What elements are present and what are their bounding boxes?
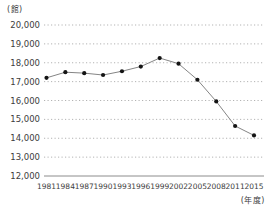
y-tick-label: 18,000 [10, 58, 40, 68]
x-tick-label: 1993 [112, 182, 131, 191]
x-tick-label: 1987 [75, 182, 94, 191]
data-point [120, 69, 124, 73]
data-line [47, 58, 255, 135]
data-point [252, 133, 256, 137]
x-tick-label: 2005 [188, 182, 207, 191]
x-axis-unit-label: (年度) [241, 194, 265, 205]
data-point [214, 99, 218, 103]
data-point [139, 64, 143, 68]
y-tick-label: 19,000 [10, 39, 40, 49]
data-point [63, 70, 67, 74]
x-tick-label: 1981 [37, 182, 56, 191]
data-point [158, 56, 162, 60]
x-tick-label: 2002 [169, 182, 188, 191]
x-tick-label: 2011 [226, 182, 245, 191]
line-chart: 20,00019,00018,00017,00016,00015,00014,0… [0, 0, 271, 209]
x-tick-label: 2008 [207, 182, 226, 191]
x-tick-label: 1990 [94, 182, 113, 191]
y-tick-label: 20,000 [10, 20, 40, 30]
data-point [101, 73, 105, 77]
x-tick-label: 2015 [244, 182, 263, 191]
y-tick-label: 15,000 [10, 114, 40, 124]
y-tick-label: 17,000 [10, 77, 40, 87]
y-tick-label: 12,000 [10, 171, 40, 181]
data-point [233, 124, 237, 128]
x-tick-label: 1996 [131, 182, 150, 191]
y-tick-label: 16,000 [10, 96, 40, 106]
line-chart-container: (館) 20,00019,00018,00017,00016,00015,000… [0, 0, 271, 209]
x-tick-label: 1984 [56, 182, 75, 191]
data-point [176, 62, 180, 66]
y-tick-label: 13,000 [10, 152, 40, 162]
data-point [82, 71, 86, 75]
data-point [195, 78, 199, 82]
y-tick-label: 14,000 [10, 133, 40, 143]
x-tick-label: 1999 [150, 182, 169, 191]
data-point [44, 76, 48, 80]
